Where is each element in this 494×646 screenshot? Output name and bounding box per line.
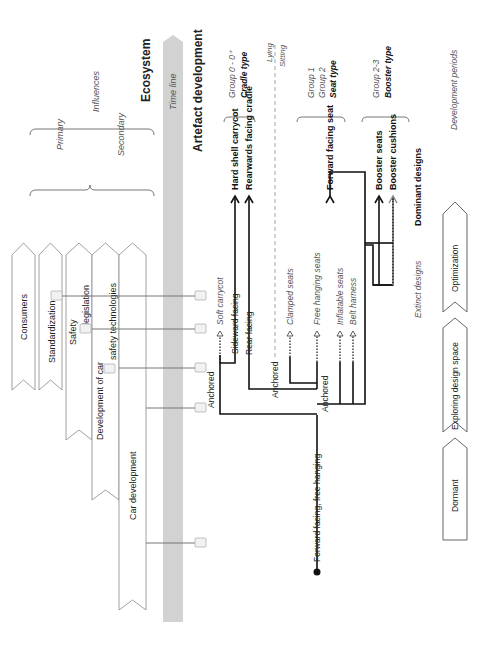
forward-facing-seat-label: Forward facing seat: [325, 105, 335, 190]
extinct-designs-legend: Extinct designs: [413, 260, 423, 318]
period-exploring-label: Exploring design space: [450, 342, 460, 430]
design-evolution-diagram: Consumers Standardization Safety legisla…: [0, 0, 494, 646]
design-tree: [220, 172, 393, 572]
legislation-label: legislation: [81, 285, 91, 325]
anchored-1-label: Anchored: [206, 371, 216, 408]
booster-cushions-label: Booster cushions: [388, 114, 398, 190]
group-0-label: Group 0 - 0⁺: [227, 49, 237, 98]
soft-carrycot-label: Soft carrycot: [215, 277, 225, 325]
hand-pointer-icon: [195, 291, 206, 300]
artefact-title: Artefact development: [191, 29, 205, 152]
car-development-label: Car development: [128, 451, 138, 520]
influence-braces: [30, 129, 154, 196]
rear-facing-label: Rear facing: [244, 311, 254, 355]
group-2-3-label: Group 2-3: [371, 59, 381, 98]
hollow-arrow-icon: [350, 331, 356, 336]
anchored-2-label: Anchored: [270, 361, 280, 398]
lying-label: Lying: [265, 42, 274, 62]
primary-secondary-brace: [30, 185, 154, 196]
influences-brace: [30, 129, 154, 135]
period-dormant-label: Dormant: [450, 479, 460, 512]
group-1-label: Group 1: [306, 67, 316, 98]
hand-pointer-icon: [195, 324, 206, 333]
influences-label: Influences: [91, 70, 101, 112]
branch-labels: Anchored Soft carrycot Sideward facing R…: [206, 251, 358, 562]
root-node: [314, 569, 321, 576]
primary-label: Primary: [55, 119, 65, 150]
anchored-3-label: Anchored: [320, 375, 330, 412]
arrow-car-development: [119, 243, 146, 610]
group-2-label: Group 2: [317, 67, 327, 98]
hand-pointer-icon: [195, 538, 206, 547]
timeline-label: Time line: [168, 74, 178, 110]
booster-seats-label: Booster seats: [374, 130, 384, 190]
period-optimization-label: Optimization: [450, 244, 460, 292]
rearwards-facing-cradle-label: Rearwards facing cradle: [244, 86, 254, 190]
consumers-label: Consumers: [19, 293, 29, 340]
car-safety-label: Development of car: [95, 362, 105, 440]
dominant-designs-legend: Dominant designs: [413, 148, 423, 226]
booster-type-label: Booster type: [383, 46, 393, 98]
secondary-label: Secondary: [116, 112, 126, 156]
seat-type-label: Seat type: [328, 60, 338, 98]
hollow-arrow-icon: [287, 331, 293, 336]
hand-pointer-icon: [80, 324, 91, 333]
hand-pointer-icon: [51, 291, 62, 300]
safety-label: Safety: [68, 319, 78, 345]
sideward-facing-label: Sideward facing: [230, 293, 240, 354]
hard-shell-carrycot-label: Hard shell carrycot: [230, 108, 240, 190]
dominant-arrowheads: [231, 196, 383, 203]
root-label: Forward facing, free hanging: [312, 454, 322, 562]
free-hanging-seats-label: Free hanging seats: [312, 251, 322, 325]
arrow-up-icon: [326, 196, 334, 203]
standardization-label: Standardization: [47, 300, 57, 363]
inflatable-seats-label: Inflatable seats: [335, 267, 345, 325]
hand-pointer-icon: [104, 364, 115, 373]
hand-pointer-icon: [195, 363, 206, 372]
hollow-arrow-icon: [314, 331, 320, 336]
hollow-arrow-icon: [337, 331, 343, 336]
dominant-labels: Hard shell carrycot Rearwards facing cra…: [230, 86, 398, 190]
ecosystem-title: Ecosystem: [139, 39, 153, 102]
sitting-label: Sitting: [278, 44, 287, 67]
ecosystem-arrows: [12, 243, 146, 610]
development-periods-title: Development periods: [449, 49, 459, 130]
hollow-arrow-icon: [217, 331, 223, 336]
safety-tech-label: safety technologies: [108, 282, 118, 360]
belt-harness-label: Belt harness: [348, 277, 358, 325]
clamped-seats-label: Clamped seats: [285, 268, 295, 325]
hand-pointer-icon: [195, 403, 206, 412]
